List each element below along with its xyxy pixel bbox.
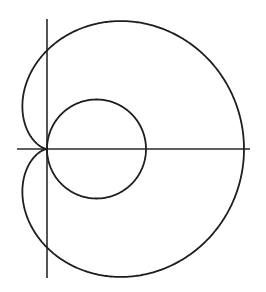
polar-diagram	[0, 0, 266, 292]
